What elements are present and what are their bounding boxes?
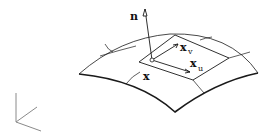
surface-diagram: n x x v x u — [0, 0, 272, 137]
tangent-v-subscript: v — [187, 47, 193, 56]
normal-label: n — [130, 10, 138, 23]
normal-vector — [143, 9, 152, 60]
tangent-u-subscript: u — [198, 64, 203, 73]
point-label: x — [143, 70, 150, 83]
base-point — [150, 58, 154, 62]
tangent-v-label: x — [180, 41, 187, 54]
tangent-u-label: x — [190, 57, 197, 70]
coordinate-axes — [16, 93, 41, 131]
